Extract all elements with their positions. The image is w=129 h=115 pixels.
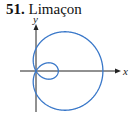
x-axis-label: x xyxy=(122,65,128,77)
limacon-diagram: x y xyxy=(0,0,129,115)
x-axis-arrow xyxy=(115,69,121,74)
y-axis-label: y xyxy=(32,13,38,25)
